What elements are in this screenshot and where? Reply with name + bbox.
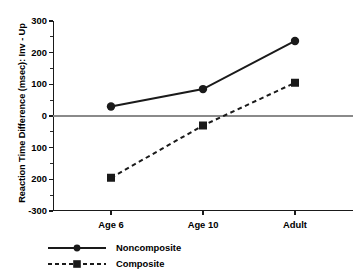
chart-figure: Reaction Time Difference (msec): Inv - U…: [0, 0, 364, 277]
legend-swatch-dashed-square-icon: [46, 256, 108, 272]
legend-label-noncomposite: Noncomposite: [116, 242, 181, 253]
data-point-noncomposite: [107, 102, 115, 110]
plot-area: 3002001000100200-300 Age 6Age 10Adult: [53, 21, 353, 211]
legend-item-composite: Composite: [46, 256, 276, 272]
x-tick-label: Adult: [255, 219, 335, 230]
series-line-composite: [111, 83, 295, 178]
x-tick-label: Age 10: [163, 219, 243, 230]
y-tick-label: -300: [1, 206, 47, 215]
y-tick-label: 100: [1, 79, 47, 88]
y-tick-label: 300: [1, 16, 47, 25]
y-tick-label: 200: [1, 48, 47, 57]
series-layer: [53, 21, 353, 211]
y-tick-label: 0: [1, 111, 47, 120]
y-tick-label: 200: [1, 174, 47, 183]
legend-label-composite: Composite: [116, 258, 164, 269]
y-tick-label: 100: [1, 143, 47, 152]
data-point-composite: [199, 122, 207, 130]
data-point-noncomposite: [199, 85, 207, 93]
chart-legend: Noncomposite Composite: [46, 240, 276, 272]
data-point-noncomposite: [291, 37, 299, 45]
legend-swatch-solid-circle-icon: [46, 240, 108, 256]
legend-item-noncomposite: Noncomposite: [46, 240, 276, 256]
x-tick-label: Age 6: [71, 219, 151, 230]
data-point-composite: [107, 174, 115, 182]
data-point-composite: [291, 79, 299, 87]
